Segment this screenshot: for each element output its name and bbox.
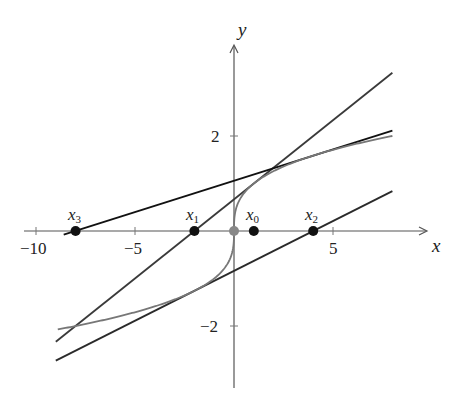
tangent-line [64, 131, 393, 235]
point-label-x2: x2 [305, 206, 318, 225]
point-label-x1: x1 [186, 206, 199, 225]
x-axis-label: x [432, 236, 440, 255]
y-tick-label-2: 2 [211, 128, 220, 145]
y-axis-label: y [238, 20, 246, 39]
point-label-x0: x0 [246, 206, 259, 225]
point-x3 [71, 226, 81, 236]
point-x0 [249, 226, 259, 236]
chart: x y −10 −5 5 2 −2 x3 x1 x0 x2 [0, 0, 458, 397]
point-x1 [189, 226, 199, 236]
axes [24, 45, 427, 388]
tangent-line [56, 73, 393, 342]
plot-area [0, 0, 458, 397]
y-tick-label-minus2: −2 [200, 318, 218, 335]
point-x2 [308, 226, 318, 236]
origin-point [229, 226, 239, 236]
x-tick-label-minus5: −5 [124, 240, 142, 257]
x-tick-label-5: 5 [329, 240, 338, 257]
tangent-line [56, 191, 393, 361]
point-label-x3: x3 [68, 206, 81, 225]
tangent-lines [56, 73, 393, 361]
x-tick-label-minus10: −10 [20, 240, 47, 257]
